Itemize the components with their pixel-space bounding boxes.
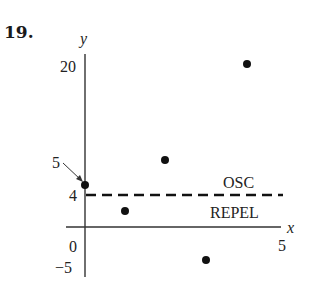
data-point <box>202 256 210 264</box>
repel-label: REPEL <box>210 204 259 221</box>
data-point <box>161 156 169 164</box>
tick-4: 4 <box>69 187 77 204</box>
scatter-chart: y x 20 4 0 −5 5 5 OSC REPEL <box>0 0 312 291</box>
data-point <box>81 181 89 189</box>
tick-neg5: −5 <box>55 259 72 276</box>
osc-label: OSC <box>223 174 254 191</box>
x-axis-label: x <box>286 219 294 236</box>
data-point <box>243 60 251 68</box>
y-axis-label: y <box>78 30 88 48</box>
annotation-5: 5 <box>52 154 60 171</box>
tick-20: 20 <box>60 58 76 75</box>
data-point <box>121 207 129 215</box>
tick-x5: 5 <box>278 237 286 254</box>
tick-0: 0 <box>69 238 77 255</box>
